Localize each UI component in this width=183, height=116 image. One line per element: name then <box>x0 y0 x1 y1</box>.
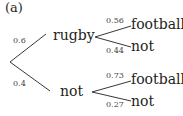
node-not-not: not <box>131 94 154 108</box>
branch-rugby-football <box>95 26 131 37</box>
prob-not-not: 0.27 <box>106 101 124 109</box>
branch-not-football <box>92 81 131 92</box>
node-not: not <box>60 84 83 98</box>
prob-rugby-not: 0.44 <box>106 47 124 55</box>
node-not-football: football <box>131 72 183 86</box>
node-rugby: rugby <box>53 28 95 42</box>
part-label: (a) <box>5 1 23 14</box>
prob-rugby: 0.6 <box>13 37 26 45</box>
prob-not: 0.4 <box>13 80 26 88</box>
prob-rugby-football: 0.56 <box>106 17 124 25</box>
node-rugby-football: football <box>131 17 183 31</box>
node-rugby-not: not <box>131 39 154 53</box>
prob-not-football: 0.73 <box>106 72 124 80</box>
